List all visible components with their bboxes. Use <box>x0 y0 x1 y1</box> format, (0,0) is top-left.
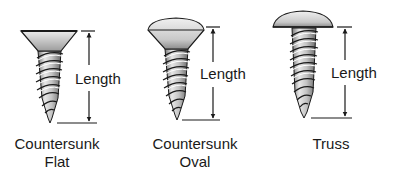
screw-types-diagram: Length Length <box>0 0 394 171</box>
screw-countersunk-flat <box>21 31 77 123</box>
caption-line: Flat <box>44 153 70 170</box>
flat-head <box>21 31 77 51</box>
caption-line: Countersunk <box>152 135 238 152</box>
caption-line: Truss <box>313 135 350 152</box>
oval-head <box>148 18 204 49</box>
caption-truss: Truss <box>313 135 350 152</box>
caption-line: Countersunk <box>14 135 100 152</box>
caption-countersunk-oval: Countersunk Oval <box>152 135 238 170</box>
length-label: Length <box>75 70 121 87</box>
caption-line: Oval <box>180 153 211 170</box>
length-label: Length <box>331 64 377 81</box>
length-label: Length <box>200 65 246 82</box>
screw-shank <box>165 49 188 120</box>
caption-countersunk-flat: Countersunk Flat <box>14 135 100 170</box>
screw-countersunk-oval <box>148 18 204 120</box>
truss-head <box>273 11 333 27</box>
screw-truss <box>273 11 333 118</box>
